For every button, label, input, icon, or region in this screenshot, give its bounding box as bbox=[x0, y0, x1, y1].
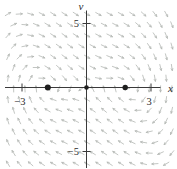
field-arrow bbox=[18, 118, 21, 124]
field-arrow bbox=[68, 44, 73, 48]
field-arrow bbox=[28, 140, 32, 144]
field-arrow bbox=[57, 66, 62, 70]
field-arrow bbox=[6, 33, 10, 38]
field-arrow bbox=[62, 12, 67, 15]
field-arrow bbox=[143, 75, 145, 81]
field-arrow bbox=[29, 119, 33, 124]
field-arrow bbox=[90, 152, 95, 155]
field-arrow bbox=[51, 34, 56, 37]
field-arrow bbox=[118, 77, 124, 79]
field-arrow bbox=[137, 86, 139, 92]
field-arrow bbox=[153, 12, 157, 17]
field-arrow bbox=[119, 98, 124, 102]
field-arrow bbox=[39, 13, 44, 16]
field-arrow bbox=[102, 130, 107, 134]
field-arrow bbox=[33, 45, 39, 47]
field-arrow bbox=[50, 120, 56, 123]
field-arrow bbox=[165, 33, 168, 39]
field-arrow bbox=[142, 97, 146, 102]
field-arrow bbox=[171, 107, 173, 113]
field-arrow bbox=[171, 43, 173, 49]
field-arrow bbox=[96, 119, 101, 123]
field-arrow bbox=[146, 152, 152, 154]
field-arrow bbox=[101, 67, 107, 69]
field-arrow bbox=[62, 55, 67, 59]
field-arrow bbox=[130, 141, 136, 144]
field-arrow bbox=[113, 130, 118, 134]
field-arrow bbox=[170, 151, 174, 156]
field-arrow bbox=[5, 12, 10, 15]
field-arrow bbox=[147, 108, 151, 112]
field-arrow bbox=[142, 33, 146, 37]
field-arrow bbox=[84, 55, 89, 58]
field-arrow bbox=[113, 23, 119, 26]
field-arrow bbox=[148, 44, 152, 49]
field-arrow bbox=[23, 129, 27, 134]
field-arrow bbox=[45, 66, 50, 69]
field-arrow bbox=[124, 66, 129, 69]
field-arrow bbox=[22, 45, 28, 47]
field-arrow bbox=[17, 55, 21, 59]
field-arrow bbox=[103, 86, 105, 92]
field-arrow bbox=[13, 65, 15, 71]
field-arrow bbox=[68, 23, 73, 26]
field-arrow bbox=[107, 141, 112, 145]
field-arrow bbox=[56, 109, 62, 111]
field-arrow bbox=[165, 97, 167, 103]
field-arrow bbox=[45, 23, 50, 26]
field-arrow bbox=[50, 98, 56, 100]
field-arrow bbox=[84, 119, 89, 122]
field-arrow bbox=[84, 34, 89, 37]
field-arrow bbox=[124, 130, 129, 133]
field-arrow bbox=[45, 45, 50, 48]
field-arrow bbox=[153, 119, 158, 123]
field-arrow bbox=[107, 162, 112, 165]
field-arrow bbox=[165, 75, 167, 81]
field-arrow bbox=[112, 66, 118, 68]
field-arrow bbox=[24, 108, 27, 114]
field-arrow bbox=[154, 97, 156, 103]
field-arrow bbox=[159, 107, 162, 113]
field-arrow bbox=[13, 86, 15, 92]
field-arrow bbox=[51, 55, 56, 59]
field-arrow bbox=[62, 162, 67, 165]
field-arrow bbox=[154, 75, 156, 81]
field-arrow bbox=[90, 109, 95, 113]
field-arrow bbox=[152, 141, 158, 143]
field-arrow bbox=[16, 34, 22, 36]
field-arrow bbox=[171, 22, 174, 28]
field-arrow bbox=[12, 107, 14, 113]
field-arrow bbox=[101, 45, 107, 48]
field-arrow bbox=[40, 97, 44, 101]
field-arrow bbox=[147, 22, 151, 27]
field-arrow bbox=[34, 108, 38, 113]
field-arrow bbox=[56, 23, 61, 26]
field-arrow bbox=[171, 64, 173, 70]
equilibrium-dot bbox=[45, 85, 51, 91]
field-arrow bbox=[114, 86, 116, 92]
field-arrow bbox=[51, 141, 56, 144]
field-arrow bbox=[95, 78, 101, 80]
field-arrow bbox=[96, 13, 101, 16]
field-arrow bbox=[23, 151, 27, 156]
field-arrow bbox=[130, 34, 135, 38]
field-arrow bbox=[45, 130, 50, 133]
field-arrow bbox=[67, 109, 73, 111]
field-arrow bbox=[45, 109, 50, 112]
field-arrow bbox=[107, 77, 113, 79]
field-arrow bbox=[146, 131, 152, 133]
x-tick-label: −3 bbox=[14, 96, 25, 107]
field-arrow bbox=[124, 152, 129, 155]
field-arrow bbox=[12, 129, 15, 135]
field-arrow bbox=[142, 54, 146, 59]
field-arrow bbox=[159, 43, 162, 49]
field-arrow bbox=[141, 141, 147, 143]
field-arrow bbox=[154, 54, 157, 60]
field-arrow bbox=[124, 45, 129, 48]
field-arrow bbox=[136, 44, 141, 48]
field-arrow bbox=[11, 44, 16, 48]
field-arrow bbox=[73, 120, 79, 123]
equilibrium-dot bbox=[123, 85, 128, 90]
field-arrow bbox=[160, 65, 162, 71]
field-arrow bbox=[73, 98, 79, 100]
